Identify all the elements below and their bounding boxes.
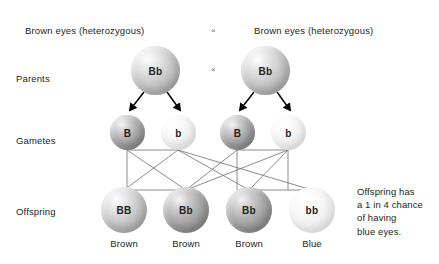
offspring-sphere: Bb: [226, 187, 272, 233]
note-line: of having: [357, 211, 423, 224]
gamete-allele-label: B: [234, 128, 242, 139]
gamete-allele-label: b: [285, 128, 291, 139]
cross-symbol-top: ×: [211, 27, 216, 35]
parent-sphere: Bb: [131, 46, 180, 95]
offspring-genotype-label: Bb: [179, 205, 193, 216]
phenotype-label: Brown: [219, 238, 279, 249]
gamete-sphere: b: [271, 115, 306, 150]
gamete-sphere: B: [220, 115, 255, 150]
header-label-right: Brown eyes (heterozygous): [254, 25, 373, 36]
phenotype-label: Brown: [156, 238, 216, 249]
offspring-sphere: Bb: [163, 187, 209, 233]
cross-symbol-middle: ×: [211, 66, 216, 74]
row-label-gametes: Gametes: [16, 135, 56, 146]
gamete-sphere: B: [110, 115, 145, 150]
parent-genotype-label: Bb: [259, 66, 273, 77]
offspring-sphere: bb: [289, 187, 335, 233]
offspring-genotype-label: BB: [116, 205, 131, 216]
phenotype-label: Brown: [94, 238, 154, 249]
note-line: Offspring has: [357, 185, 423, 198]
offspring-probability-note: Offspring has a 1 in 4 chance of having …: [357, 185, 423, 238]
gamete-allele-label: b: [175, 128, 181, 139]
offspring-genotype-label: Bb: [242, 205, 256, 216]
row-label-offspring: Offspring: [16, 206, 56, 217]
note-line: blue eyes.: [357, 225, 423, 238]
gamete-allele-label: B: [124, 128, 132, 139]
header-label-left: Brown eyes (heterozygous): [25, 25, 144, 36]
offspring-sphere: BB: [101, 187, 147, 233]
gamete-sphere: b: [161, 115, 196, 150]
parent-genotype-label: Bb: [149, 66, 163, 77]
offspring-genotype-label: bb: [306, 205, 319, 216]
parent-sphere: Bb: [241, 46, 290, 95]
note-line: a 1 in 4 chance: [357, 198, 423, 211]
phenotype-label: Blue: [282, 238, 342, 249]
punnett-inheritance-diagram: Brown eyes (heterozygous) × Brown eyes (…: [0, 0, 439, 264]
row-label-parents: Parents: [16, 73, 50, 84]
